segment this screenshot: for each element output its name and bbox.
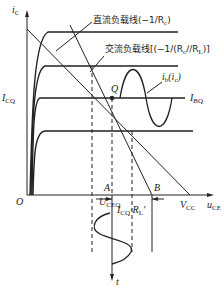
time-axis-arrow-icon [110,274,114,281]
origin-label: O [16,197,23,207]
span-arrow-right-head-icon [152,197,158,201]
ibq-label: IBQ [190,93,203,105]
q-point-label: Q [111,84,118,94]
time-axis-label: t [116,277,119,287]
ib-wave-label: ib(ic) [162,72,181,84]
uce-sine-wave [94,213,131,264]
icq-label: ICQ [2,93,15,105]
point-b-label: B [154,183,160,193]
x-axis-label: uCE [207,200,221,212]
point-a-label: A [104,183,110,193]
curve-4 [33,131,193,195]
dc-label-leader [56,22,92,51]
vcc-label: VCC [180,200,195,212]
dc-load-line-label: 直流负载线(−1/Rc) [93,15,171,27]
ib-label-leader [147,82,162,93]
span-label: ICQ·RL′ [117,205,145,217]
y-axis-arrow-icon [25,10,29,17]
ac-load-line-label: 交流负载线[(−1/(Rc//RL)] [105,44,210,56]
x-axis-arrow-icon [207,193,214,197]
y-axis-label: iC [12,5,19,17]
